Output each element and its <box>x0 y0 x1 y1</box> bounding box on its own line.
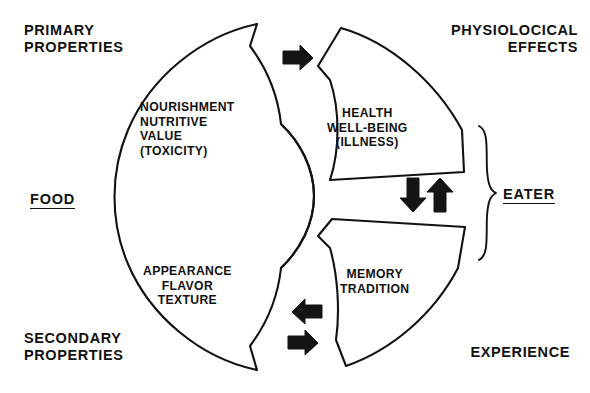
sector-text-primary-properties: NOURISHMENT NUTRITIVE VALUE (TOXICITY) <box>140 100 235 158</box>
food-crescent-shape <box>115 24 315 370</box>
label-experience: EXPERIENCE <box>471 344 570 361</box>
sector-text-secondary-properties: APPEARANCE FLAVOR TEXTURE <box>143 264 232 308</box>
label-eater-role: EATER <box>503 187 555 204</box>
eater-brace-icon <box>479 126 496 260</box>
label-secondary-properties: SECONDARY PROPERTIES <box>24 330 123 364</box>
label-physiological-effects: PHYSIOLOCICAL EFFECTS <box>451 22 578 56</box>
label-food-role: FOOD <box>30 192 75 209</box>
sector-text-physiological-effects: HEALTH WELL-BEING (ILLNESS) <box>327 106 408 150</box>
diagram-canvas: PRIMARY PROPERTIES PHYSIOLOCICAL EFFECTS… <box>0 0 590 393</box>
physiological-effects-sector-shape <box>318 28 464 180</box>
sector-text-experience: MEMORY TRADITION <box>340 267 410 296</box>
arrow-top-right-icon <box>283 45 313 70</box>
arrow-middle-up-icon <box>427 178 453 212</box>
arrow-bottom-left-icon <box>292 299 322 324</box>
arrow-middle-down-icon <box>400 178 426 212</box>
label-primary-properties: PRIMARY PROPERTIES <box>24 22 123 56</box>
arrow-bottom-right-icon <box>288 330 318 355</box>
